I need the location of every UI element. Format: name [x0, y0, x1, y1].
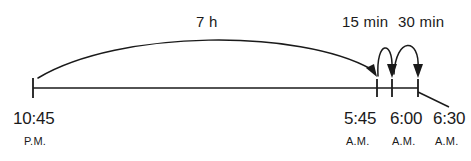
- time-label-600am: 6:00: [390, 110, 422, 127]
- duration-label-7h: 7 h: [196, 14, 217, 29]
- meridiem-label-am-630: A.M.: [435, 136, 458, 147]
- duration-label-30min: 30 min: [398, 14, 444, 29]
- arc-30min-arrowhead: [413, 64, 423, 78]
- time-label-1045pm: 10:45: [13, 110, 55, 127]
- duration-label-15min: 15 min: [342, 14, 388, 29]
- elapsed-time-number-line-diagram: 7 h 15 min 30 min 10:45 P.M. 5:45 A.M. 6…: [0, 0, 471, 161]
- arc-30min-curve: [394, 45, 418, 74]
- leader-line-630am: [418, 92, 449, 107]
- arc-7h-arrowhead: [366, 64, 377, 77]
- meridiem-label-pm: P.M.: [24, 136, 46, 147]
- time-label-630am: 6:30: [433, 110, 465, 127]
- time-label-545am: 5:45: [344, 110, 376, 127]
- meridiem-label-am-600: A.M.: [392, 136, 415, 147]
- arc-7h-curve: [38, 40, 371, 78]
- meridiem-label-am-545: A.M.: [346, 136, 369, 147]
